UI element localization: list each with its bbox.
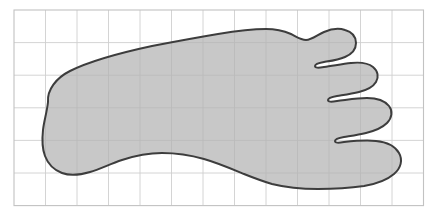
foot-grid-figure xyxy=(0,0,437,216)
figure-root: Shaded outline of a left foot (plantar v… xyxy=(0,0,437,216)
